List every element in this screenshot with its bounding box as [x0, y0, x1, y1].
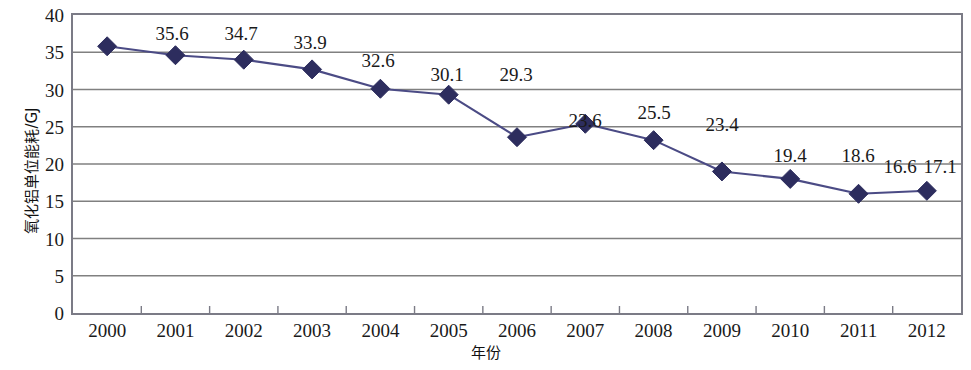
x-axis-tick-label: 2012: [908, 320, 946, 342]
series-line: [107, 46, 927, 194]
data-point-marker: [917, 181, 936, 200]
data-point-marker: [576, 114, 595, 133]
y-axis-tick-label: 25: [18, 117, 64, 136]
x-axis-tick-label: 2010: [771, 320, 809, 342]
data-point-marker: [508, 128, 527, 147]
data-point-marker: [234, 50, 253, 69]
y-axis-tick-label: 15: [18, 192, 64, 211]
y-axis-tick-label: 10: [18, 229, 64, 248]
y-axis-tick-label: 30: [18, 80, 64, 99]
x-axis-tick-label: 2001: [156, 320, 194, 342]
x-axis-tick-label: 2007: [566, 320, 604, 342]
y-axis-tick-labels: 4035302520151050: [16, 0, 64, 370]
y-axis-tick-label: 35: [18, 43, 64, 62]
x-axis-tick-label: 2000: [88, 320, 126, 342]
data-point-marker: [644, 131, 663, 150]
x-axis-tick-label: 2003: [293, 320, 331, 342]
data-point-marker: [303, 60, 322, 79]
data-point-marker: [439, 85, 458, 104]
x-axis-tick-label: 2008: [635, 320, 673, 342]
x-axis-tick-label: 2005: [430, 320, 468, 342]
y-axis-tick-label: 40: [18, 6, 64, 25]
x-axis-tick-label: 2004: [361, 320, 399, 342]
x-axis-tick-label: 2002: [225, 320, 263, 342]
x-axis-tick-label: 2009: [703, 320, 741, 342]
plot-area: [71, 13, 963, 315]
data-point-marker: [781, 169, 800, 188]
data-point-marker: [849, 184, 868, 203]
x-axis-title: 年份: [0, 341, 971, 362]
plot-svg: [73, 15, 961, 313]
x-axis-tick-label: 2006: [498, 320, 536, 342]
data-point-marker: [166, 46, 185, 65]
x-axis-tick-label: 2011: [840, 320, 877, 342]
data-point-marker: [712, 162, 731, 181]
data-point-marker: [371, 79, 390, 98]
y-axis-tick-label: 0: [18, 304, 64, 323]
line-chart: 氧化铝单位能耗/GJ 4035302520151050 200020012002…: [0, 0, 971, 370]
y-axis-tick-label: 20: [18, 155, 64, 174]
y-axis-tick-label: 5: [18, 266, 64, 285]
